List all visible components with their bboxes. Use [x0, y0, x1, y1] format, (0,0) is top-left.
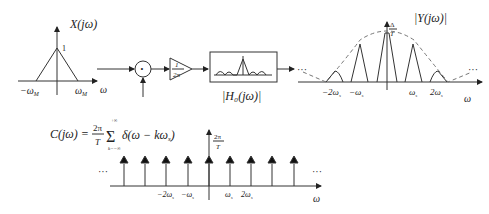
tick-pos-wm: ωM	[75, 85, 88, 97]
comb-ellipsis-left: ···	[98, 166, 108, 177]
pulse-pos2	[430, 71, 447, 82]
comb-axis-label-omega: ω	[313, 193, 320, 204]
multiplier-symbol: •	[141, 65, 144, 74]
input-spectrum-plot: X(jω) 1 −ωM ωM ω	[18, 17, 107, 97]
pulse-pos1	[405, 44, 422, 82]
comb-ellipsis-right: ···	[312, 166, 322, 177]
sum-icon: Σ	[106, 128, 115, 145]
output-spectrum-plot: ··· ··· |Y(jω)| Δ T −2ωs −ωs ωs 2ωs ω	[297, 11, 482, 104]
tick-ws: ωs	[409, 87, 417, 98]
comb-formula-sum-lower: k=−∞	[108, 146, 121, 151]
impulse-train	[120, 156, 298, 186]
amplifier-num: 1	[175, 61, 179, 69]
tick-negws: −ωs	[349, 87, 363, 98]
axis-label-omega: ω	[100, 84, 107, 95]
sampling-diagram: X(jω) 1 −ωM ωM ω • 1 2π |H₀(jω)| ··· ···	[0, 0, 489, 214]
comb-tick-ws: ωs	[225, 190, 233, 200]
comb-formula-frac-den: T	[95, 137, 101, 147]
pulse-neg1	[351, 44, 368, 82]
tick-neg2ws: −2ωs	[322, 87, 341, 98]
comb-tick-2ws: 2ωs	[241, 190, 253, 200]
comb-formula-sum-upper: +∞	[111, 118, 118, 123]
sinc-icon	[216, 59, 266, 75]
comb-formula-frac-num: 2π	[93, 123, 103, 133]
comb-tick-negws: −ωs	[181, 190, 194, 200]
comb-spectrum-plot: C(jω) = 2π T +∞ Σ k=−∞ δ(ω − kωs) ··· ··…	[50, 118, 322, 204]
signal-chain: • 1 2π |H₀(jω)|	[97, 52, 294, 103]
comb-formula-body: δ(ω − kωs)	[122, 128, 175, 143]
input-spectrum-title: X(jω)	[69, 17, 97, 31]
tick-2ws: 2ωs	[430, 87, 443, 98]
comb-peak-den: T	[216, 143, 221, 151]
amplifier-den: 2π	[173, 71, 181, 79]
tick-neg-wm: −ωM	[20, 85, 40, 97]
axis-label-omega-out: ω	[464, 93, 471, 104]
output-spectrum-title: |Y(jω)|	[414, 11, 447, 25]
peak-label: 1	[62, 44, 66, 53]
comb-peak-num: 2π	[214, 133, 222, 141]
comb-formula-lhs: C(jω) =	[50, 127, 89, 141]
comb-tick-neg2ws: −2ωs	[157, 190, 174, 200]
peak-num: Δ	[390, 21, 395, 29]
filter-label: |H₀(jω)|	[222, 89, 261, 103]
ellipsis-right: ···	[468, 64, 478, 75]
